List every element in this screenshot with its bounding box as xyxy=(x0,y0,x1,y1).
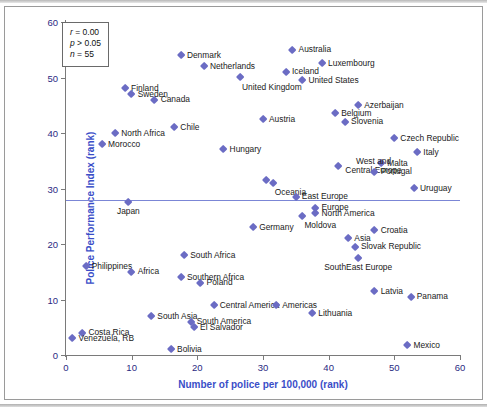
y-axis-tick-label: 20 xyxy=(47,239,58,250)
data-point-marker xyxy=(410,184,419,193)
data-point-label: Hungary xyxy=(230,145,262,154)
x-axis-tick-label: 10 xyxy=(126,362,137,373)
data-point-marker xyxy=(413,148,422,157)
statistics-annotation-box: r = 0.00 p > 0.05 n = 55 xyxy=(62,22,109,67)
data-point-label: Slovak Republic xyxy=(361,242,421,251)
y-axis-tick-label: 50 xyxy=(47,72,58,83)
plot-area: DenmarkAustraliaLuxembourgNetherlandsIce… xyxy=(66,22,460,355)
y-axis-tick xyxy=(61,244,66,245)
data-point-label: Venezuela, RB xyxy=(79,334,134,343)
data-point-marker xyxy=(334,162,343,171)
data-point-label: Uruguay xyxy=(420,184,452,193)
data-point-marker xyxy=(331,109,340,118)
data-point-marker xyxy=(308,309,317,318)
figure-bottom-border xyxy=(0,404,487,407)
data-point-marker xyxy=(281,67,290,76)
data-point-label: United Kingdom xyxy=(242,83,302,92)
data-point-marker xyxy=(258,115,267,124)
data-point-marker xyxy=(176,51,185,60)
x-axis-tick xyxy=(329,355,330,360)
data-point-marker xyxy=(180,251,189,260)
data-point-label: North Africa xyxy=(121,129,165,138)
y-axis-tick-label: 40 xyxy=(47,128,58,139)
y-axis-tick xyxy=(61,78,66,79)
data-point-marker xyxy=(311,209,320,218)
figure-top-border xyxy=(0,0,487,3)
data-point-label: Lithuania xyxy=(318,309,352,318)
y-axis-tick-label: 10 xyxy=(47,294,58,305)
y-axis-tick xyxy=(61,189,66,190)
x-axis-tick xyxy=(263,355,264,360)
stat-n-value: = 55 xyxy=(77,49,94,59)
data-point-marker xyxy=(170,123,179,132)
data-point-marker xyxy=(147,312,156,321)
data-point-marker xyxy=(344,234,353,243)
data-point-label: Bolivia xyxy=(177,345,202,354)
data-point-label: El Salvador xyxy=(200,323,243,332)
data-point-label: South Africa xyxy=(190,251,235,260)
y-axis-tick xyxy=(61,133,66,134)
data-point-marker xyxy=(406,292,415,301)
data-point-marker xyxy=(403,340,412,349)
data-point-label: Luxembourg xyxy=(328,59,375,68)
data-point-label: Morocco xyxy=(108,140,140,149)
data-point-label: Japan xyxy=(117,207,140,216)
data-point-label: Croatia xyxy=(381,226,408,235)
data-point-marker xyxy=(98,140,107,149)
data-point-marker xyxy=(219,145,228,154)
data-point-marker xyxy=(81,262,90,271)
data-point-marker xyxy=(167,345,176,354)
x-axis-tick xyxy=(394,355,395,360)
data-point-label: Czech Republic xyxy=(400,134,459,143)
y-axis-tick-label: 0 xyxy=(53,350,58,361)
data-point-marker xyxy=(341,117,350,126)
x-axis-tick xyxy=(460,355,461,360)
data-point-marker xyxy=(68,334,77,343)
data-point-label: Latvia xyxy=(381,287,403,296)
data-point-label: North America xyxy=(322,209,375,218)
data-point-label: Africa xyxy=(138,267,159,276)
data-point-marker xyxy=(209,301,218,310)
data-point-label: Slovenia xyxy=(351,117,383,126)
x-axis-tick-label: 50 xyxy=(389,362,400,373)
stat-n: n = 55 xyxy=(70,49,101,60)
stat-p: p > 0.05 xyxy=(70,38,101,49)
data-point-marker xyxy=(127,267,136,276)
data-point-marker xyxy=(288,45,297,54)
data-point-label: Italy xyxy=(423,148,438,157)
data-point-label: Philippines xyxy=(92,262,133,271)
data-point-label: Netherlands xyxy=(210,62,255,71)
data-point-label: Austria xyxy=(269,115,295,124)
stat-r-value: = 0.00 xyxy=(75,27,99,37)
data-point-label: Central America xyxy=(220,301,280,310)
stat-r-label: r xyxy=(70,27,73,37)
data-point-label: Denmark xyxy=(187,51,221,60)
x-axis-tick-label: 0 xyxy=(63,362,68,373)
data-point-marker xyxy=(176,273,185,282)
data-point-marker xyxy=(370,287,379,296)
y-axis-tick-label: 60 xyxy=(47,17,58,28)
data-point-marker xyxy=(111,128,120,137)
data-point-label: Australia xyxy=(299,45,332,54)
data-point-label: Canada xyxy=(161,95,190,104)
x-axis-tick-label: 30 xyxy=(258,362,269,373)
data-point-marker xyxy=(370,226,379,235)
data-point-label: Chile xyxy=(180,123,199,132)
stat-r: r = 0.00 xyxy=(70,27,101,38)
stat-n-label: n xyxy=(70,49,75,59)
x-axis-tick-label: 60 xyxy=(455,362,466,373)
data-point-marker xyxy=(249,223,258,232)
data-point-label: United States xyxy=(308,76,358,85)
data-point-label: Moldova xyxy=(304,221,336,230)
stat-p-value: > 0.05 xyxy=(77,38,101,48)
x-axis-title: Number of police per 100,000 (rank) xyxy=(66,379,460,390)
y-axis-tick xyxy=(61,300,66,301)
data-point-label: Mexico xyxy=(413,341,440,350)
data-point-label: Panama xyxy=(417,292,448,301)
x-axis-tick xyxy=(197,355,198,360)
data-point-label: East Europe xyxy=(302,192,348,201)
data-point-label: Portugal xyxy=(381,167,412,176)
stat-p-label: p xyxy=(70,38,75,48)
scatter-plot-figure: Police Performance Index (rank) Number o… xyxy=(0,0,487,416)
data-point-marker xyxy=(390,134,399,143)
